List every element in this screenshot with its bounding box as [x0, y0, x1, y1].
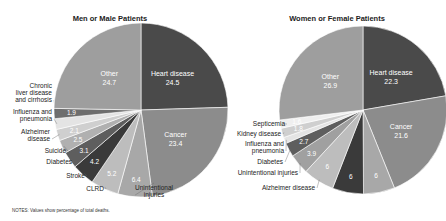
slice-external-label: pneumonia	[20, 115, 53, 123]
slice-external-label: Alzheimer disease	[262, 184, 315, 191]
slice-label: Other	[322, 73, 340, 80]
slice-external-label: pneumonia	[252, 147, 285, 155]
slice-label: 22.3	[384, 78, 398, 85]
slice-external-label: Unintentional	[135, 184, 173, 191]
notes-text: NOTES: Values show percentage of total d…	[12, 208, 110, 213]
slice-value: 6	[326, 163, 330, 170]
slice-external-label: Stroke	[66, 172, 85, 179]
slice-external-label: Influenza and	[245, 140, 284, 147]
slice-external-label: disease	[28, 135, 51, 142]
slice-label: 24.5	[166, 79, 180, 86]
slice-external-label: injuries	[144, 191, 165, 199]
pie-slice-other	[54, 23, 141, 110]
slice-label: 23.4	[169, 140, 183, 147]
slice-value: 4.2	[90, 158, 99, 165]
slice-external-label: and cirrhosis	[15, 96, 53, 103]
slice-external-label: Septicemia	[253, 120, 286, 128]
slice-external-label: Unintentional injuries	[238, 169, 299, 177]
slice-value: 6	[374, 172, 378, 179]
slice-value: 1.9	[67, 109, 76, 116]
slice-label: 21.6	[394, 132, 408, 139]
slice-label: Cancer	[390, 123, 413, 130]
slice-external-label: CLRD	[86, 185, 104, 192]
pie-slice-heart-disease	[141, 23, 228, 110]
slice-external-label: Suicide	[45, 147, 67, 154]
slice-value: 2.7	[299, 138, 308, 145]
slice-external-label: Kidney disease	[237, 130, 281, 138]
slice-value: 5.2	[107, 170, 116, 177]
slice-value: 3.9	[307, 150, 316, 157]
slice-external-label: Alzheimer	[21, 128, 51, 135]
slice-value: 2.5	[73, 136, 82, 143]
slice-value: 1.6	[292, 118, 301, 125]
slice-external-label: Diabetes	[257, 158, 283, 165]
slice-label: 26.9	[324, 82, 338, 89]
slice-label: 24.7	[103, 79, 117, 86]
slice-external-label: Chronic	[30, 82, 53, 89]
slice-value: 6	[349, 173, 353, 180]
slice-value: 3.1	[80, 147, 89, 154]
slice-external-label: Diabetes	[46, 158, 72, 165]
slice-label: Other	[101, 70, 119, 77]
women-pie: Heart disease22.3Cancer21.6666Alzheimer …	[237, 26, 446, 194]
slice-label: Heart disease	[151, 70, 194, 77]
pie-slice-cancer	[141, 107, 228, 196]
men-pie: Heart disease24.5Cancer23.46.4Unintentio…	[13, 23, 228, 199]
slice-value: 6.4	[132, 176, 141, 183]
slice-external-label: Influenza and	[13, 108, 52, 115]
slice-label: Heart disease	[370, 69, 413, 76]
slice-value: 2.1	[70, 127, 79, 134]
slice-value: 1.8	[294, 125, 303, 132]
slice-label: Cancer	[164, 131, 187, 138]
pie-charts: Heart disease24.5Cancer23.46.4Unintentio…	[0, 0, 446, 221]
slice-external-label: liver disease	[16, 89, 53, 96]
